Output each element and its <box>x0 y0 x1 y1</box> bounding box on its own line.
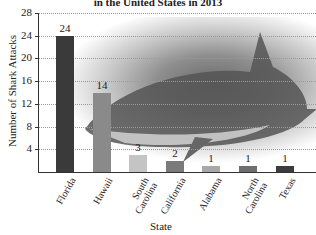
bar-value-label: 1 <box>196 152 226 164</box>
gridline <box>39 104 316 105</box>
y-tick-label: 12 <box>12 97 32 109</box>
bar-alabama <box>202 166 220 172</box>
bar-value-label: 1 <box>270 152 300 164</box>
x-tick-label: Hawaii <box>76 176 115 233</box>
shark-photo <box>45 17 316 167</box>
gridline <box>39 36 316 37</box>
x-axis-label: State <box>150 220 172 232</box>
x-tick-label: Florida <box>39 176 78 233</box>
bar-value-label: 14 <box>87 79 117 91</box>
y-tick-label: 8 <box>12 120 32 132</box>
gridline <box>39 127 316 128</box>
gridline <box>39 81 316 82</box>
plot-area: 241432111 <box>38 13 316 173</box>
y-tick <box>35 127 39 128</box>
y-tick <box>35 58 39 59</box>
x-tick-label: Alabama <box>185 176 224 233</box>
bar-value-label: 2 <box>160 147 190 159</box>
bar-california <box>166 161 184 172</box>
y-axis-label: Number of Shark Attacks <box>6 31 18 151</box>
y-tick-label: 28 <box>12 6 32 18</box>
y-tick <box>35 104 39 105</box>
y-tick-label: 20 <box>12 51 32 63</box>
bar-hawaii <box>93 93 111 173</box>
y-tick <box>35 13 39 14</box>
y-tick <box>35 81 39 82</box>
bar-south-carolina <box>129 155 147 172</box>
shark-image-icon <box>45 17 316 167</box>
y-tick-label: 16 <box>12 74 32 86</box>
bar-north-carolina <box>239 166 257 172</box>
gridline <box>39 58 316 59</box>
bar-florida <box>56 36 74 172</box>
chart-title: in the United States in 2013 <box>0 0 316 8</box>
bar-texas <box>276 166 294 172</box>
gridline <box>39 13 316 14</box>
bar-value-label: 24 <box>50 22 80 34</box>
bar-value-label: 3 <box>123 141 153 153</box>
y-tick-label: 24 <box>12 29 32 41</box>
y-tick <box>35 36 39 37</box>
y-tick <box>35 149 39 150</box>
y-tick-label: 4 <box>12 142 32 154</box>
bar-value-label: 1 <box>233 152 263 164</box>
